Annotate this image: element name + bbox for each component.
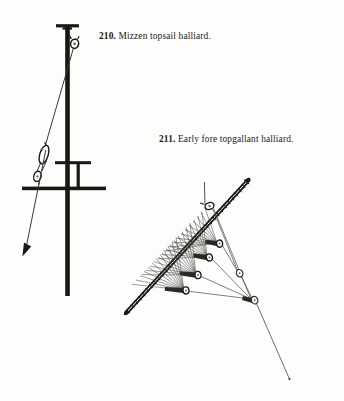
caption-210-number: 210. <box>99 31 116 41</box>
caption-211-text: Early fore topgallant halliard. <box>176 134 294 144</box>
hauling-arrow <box>22 243 31 257</box>
figure-210-mizzen-topsail-halliard <box>0 0 344 401</box>
lower-right-block-b <box>242 295 259 304</box>
caption-210-text: Mizzen topsail halliard. <box>116 31 211 41</box>
halliard-standing-part <box>45 48 74 147</box>
caption-211-number: 211. <box>159 134 176 144</box>
block-4 <box>165 286 190 294</box>
upper-tackle-block <box>37 142 51 165</box>
upper-crosstree <box>55 161 91 164</box>
upper-crosstree-stanchion <box>77 164 80 189</box>
tackle-fall-b <box>42 161 47 171</box>
mast-cap <box>56 24 79 27</box>
spar-upper-tip <box>244 177 251 183</box>
diagonal-spar <box>123 177 250 315</box>
mast-cap-base <box>63 27 73 29</box>
standing-part <box>188 208 253 300</box>
caption-210: 210. Mizzen topsail halliard. <box>99 32 211 41</box>
whip-line-fan-2 <box>158 212 207 259</box>
tackle-fall-a <box>37 162 41 172</box>
block-2 <box>193 253 213 261</box>
whip-line-fan-1 <box>165 208 217 251</box>
lower-tackle-block <box>32 170 42 184</box>
masthead-sheave-block <box>69 36 79 50</box>
figure-211-early-fore-topgallant-halliard <box>0 0 344 401</box>
spar-head-block <box>200 201 215 211</box>
lower-right-block-a <box>235 268 244 278</box>
spar-head-stay <box>204 182 205 205</box>
fall-tail-end <box>288 378 290 380</box>
lower-yard <box>22 187 106 191</box>
caption-211: 211. Early fore topgallant halliard. <box>159 135 294 144</box>
fall-tail <box>256 302 289 378</box>
whip-line-fan-4 <box>132 237 184 290</box>
mast-pole <box>65 26 70 296</box>
halliard-hauling-part <box>27 150 46 245</box>
block-1 <box>205 239 223 247</box>
illustration-page: 210. Mizzen topsail halliard. 211. Early… <box>0 0 344 401</box>
whip-line-fan-3 <box>142 223 196 275</box>
block-3 <box>180 271 202 279</box>
spar-lower-tip <box>123 309 130 315</box>
